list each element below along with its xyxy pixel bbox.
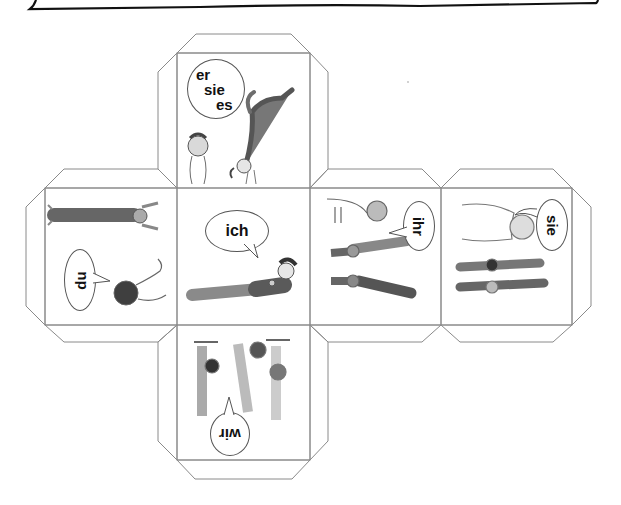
face-top: er sie es — [178, 54, 309, 187]
face-ihr: ihr — [311, 189, 440, 324]
lying-child-illustration — [178, 189, 309, 324]
bubble-tail — [388, 225, 408, 241]
face-left: du — [46, 189, 176, 324]
pronoun-du: du — [71, 271, 88, 289]
face-center: ich — [178, 189, 309, 324]
handstand-illustration — [178, 54, 309, 187]
lying-child-illustration — [46, 189, 176, 324]
speech-bubble: sie — [536, 199, 568, 251]
bubble-tail — [92, 271, 112, 287]
pronoun-ihr: ihr — [410, 216, 427, 235]
bubble-tail — [514, 207, 538, 221]
face-bottom: wir — [178, 326, 309, 459]
pronoun-sie: sie — [543, 215, 560, 236]
bubble-tail — [222, 396, 236, 416]
pronoun-wir: wir — [219, 426, 241, 443]
speech-bubble: wir — [210, 412, 250, 456]
face-sie: sie — [442, 189, 571, 324]
